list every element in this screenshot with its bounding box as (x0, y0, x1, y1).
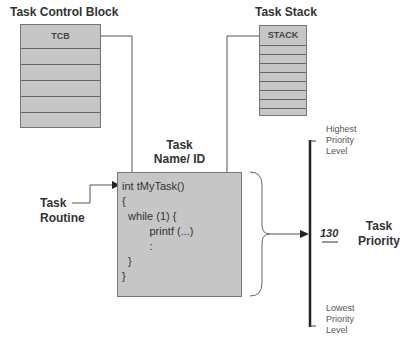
lowest-priority-label: Lowest Priority Level (326, 303, 355, 336)
stack-title: Task Stack (255, 5, 317, 19)
tcb-row (21, 97, 100, 113)
stack-row (260, 46, 306, 55)
stack-row (260, 100, 306, 109)
task-routine-label: Task Routine (40, 196, 85, 226)
stack-box: STACK (259, 25, 307, 116)
tcb-row (21, 49, 100, 65)
code-line: int tMyTask() (122, 179, 241, 194)
tcb-header: TCB (21, 25, 100, 49)
tcb-row (21, 113, 100, 127)
task-routine-code-box: int tMyTask() { while (1) { printf (...)… (117, 172, 242, 297)
code-line: } (122, 254, 241, 269)
priority-value: 130 (320, 227, 338, 239)
tcb-row (21, 65, 100, 81)
stack-row (260, 82, 306, 91)
code-line: printf (...) (122, 224, 241, 239)
code-line: { (122, 194, 241, 209)
stack-row (260, 64, 306, 73)
highest-priority-label: Highest Priority Level (326, 124, 357, 157)
stack-row (260, 55, 306, 64)
stack-header: STACK (260, 26, 306, 46)
code-line: } (122, 269, 241, 284)
stack-row (260, 73, 306, 82)
tcb-title: Task Control Block (10, 5, 118, 19)
tcb-box: TCB (20, 24, 101, 128)
tcb-row (21, 81, 100, 97)
code-line: : (122, 239, 241, 254)
stack-row (260, 91, 306, 100)
code-line: while (1) { (122, 209, 241, 224)
task-priority-label: Task Priority (352, 219, 406, 249)
task-name-label: Task Name/ ID (132, 138, 227, 166)
